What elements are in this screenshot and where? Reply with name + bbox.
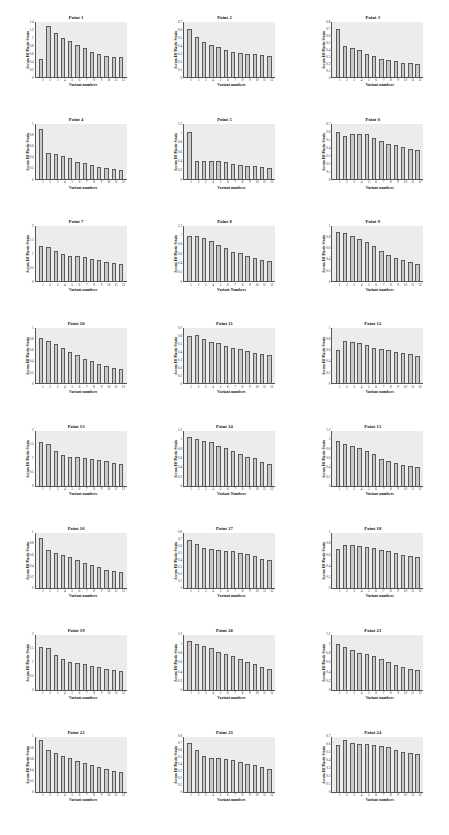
bar (97, 364, 101, 383)
bar (68, 662, 72, 690)
bar (336, 29, 340, 77)
bar (415, 356, 419, 384)
bar (119, 170, 123, 179)
bar (336, 644, 340, 690)
x-axis-label: Variant numbers (69, 595, 97, 599)
bar (224, 654, 228, 690)
chart-panel: Point 8Accum Eff Plastic Strain1.210.80.… (150, 218, 298, 320)
plot-box (183, 328, 275, 384)
bar (224, 50, 228, 78)
plot-box (35, 533, 127, 589)
bar (343, 740, 347, 792)
bar (408, 63, 412, 77)
bar (231, 52, 235, 77)
plot-area: Accum Eff Plastic Strain1.210.80.60.40.2… (322, 431, 423, 487)
bar (267, 560, 271, 588)
bar (401, 63, 405, 77)
bar (245, 662, 249, 690)
bar (83, 257, 87, 282)
bar (112, 571, 116, 588)
plot-box (35, 22, 127, 78)
plot-area: Accum Eff Plastic Strain21.510.50 (26, 431, 127, 487)
bar (83, 664, 87, 690)
bar (97, 667, 101, 690)
bar (97, 260, 101, 281)
x-axis-label: Variant numbers (69, 391, 97, 395)
plot-area: Accum Eff Plastic Strain21.510.50 (26, 635, 127, 691)
bar (357, 546, 361, 588)
bar (401, 752, 405, 792)
bar (209, 45, 213, 77)
bar (68, 352, 72, 384)
bar-series (184, 226, 275, 281)
bar (401, 147, 405, 179)
bar (224, 346, 228, 384)
bar (245, 764, 249, 792)
chart-title: Point 10 (68, 322, 85, 327)
x-axis-label: Variant numbers (366, 493, 394, 497)
bar (408, 669, 412, 690)
bar (401, 260, 405, 281)
bar-series (332, 737, 423, 792)
chart-panel: Point 6Accum Eff Plastic Strain0.70.60.5… (299, 116, 447, 218)
bar (83, 563, 87, 588)
bar (408, 354, 412, 383)
bar (209, 342, 213, 384)
chart-title: Point 7 (69, 220, 84, 225)
chart-title: Point 19 (68, 629, 85, 634)
bar (267, 769, 271, 792)
bar (90, 165, 94, 179)
bar (343, 444, 347, 485)
y-axis-label: Accum Eff Plastic Strain (26, 226, 30, 282)
chart-title: Point 6 (366, 118, 381, 123)
chart-title: Point 14 (216, 425, 233, 430)
bar (112, 263, 116, 282)
chart-title: Point 21 (364, 629, 381, 634)
bar (386, 551, 390, 588)
bar (394, 61, 398, 77)
bar (90, 666, 94, 690)
bar (253, 458, 257, 486)
plot-area: Accum Eff Plastic Strain10.80.60.40.20 (26, 328, 127, 384)
x-axis-label: Variant numbers (69, 493, 97, 497)
plot-box (183, 635, 275, 691)
bar (46, 341, 50, 383)
bar (68, 758, 72, 792)
chart-panel: Point 17Accum Eff Plastic Strain0.80.70.… (150, 525, 298, 627)
bar (39, 59, 43, 77)
bar (46, 247, 50, 282)
bar (119, 772, 123, 792)
bar (97, 54, 101, 77)
plot-area: Accum Eff Plastic Strain1.210.80.60.40.2… (174, 226, 275, 282)
bar (357, 744, 361, 792)
bar (202, 441, 206, 486)
plot-box (183, 22, 275, 78)
bar (39, 246, 43, 281)
bar (357, 448, 361, 486)
bar (415, 467, 419, 485)
bar (54, 451, 58, 485)
bar (343, 341, 347, 384)
plot-box (183, 431, 275, 487)
bar (238, 762, 242, 792)
bar (187, 743, 191, 792)
bar (365, 54, 369, 77)
chart-panel: Point 21Accum Eff Plastic Strain1.210.80… (299, 627, 447, 729)
chart-title: Point 4 (69, 118, 84, 123)
bar (195, 439, 199, 486)
bar (245, 54, 249, 78)
bar-series (36, 737, 127, 792)
bar (357, 50, 361, 77)
chart-title: Point 24 (364, 731, 381, 736)
bar (187, 236, 191, 282)
bar (54, 655, 58, 690)
bar (54, 344, 58, 383)
bar (245, 554, 249, 588)
bar (379, 550, 383, 588)
chart-title: Point 18 (364, 527, 381, 532)
bar (231, 164, 235, 179)
bar (112, 368, 116, 384)
bar-series (36, 533, 127, 588)
bar (202, 42, 206, 77)
chart-panel: Point 10Accum Eff Plastic Strain10.80.60… (2, 320, 150, 422)
